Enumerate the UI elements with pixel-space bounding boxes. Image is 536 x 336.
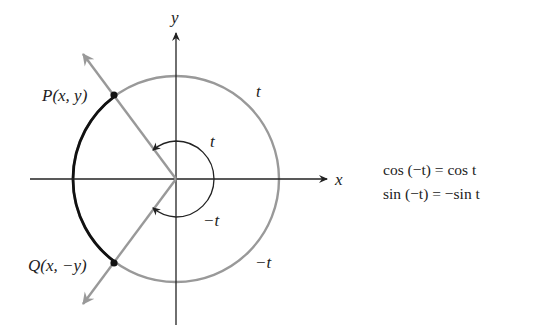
y-axis-label: y: [169, 8, 179, 27]
sin-identity: sin (−t) = −sin t: [383, 182, 480, 206]
lower-arc-label: −t: [255, 253, 272, 272]
point-p-label: P(x, y): [41, 86, 88, 105]
cos-identity: cos (−t) = cos t: [383, 158, 480, 182]
ray-to-p: [83, 54, 176, 179]
point-q: [110, 259, 117, 266]
x-axis-label: x: [334, 170, 343, 189]
identities: cos (−t) = cos t sin (−t) = −sin t: [383, 158, 480, 206]
angle-positive-label: t: [210, 132, 216, 151]
point-q-label: Q(x, −y): [28, 256, 87, 275]
point-p: [110, 91, 117, 98]
angle-negative-label: −t: [203, 211, 220, 230]
upper-arc-label: t: [256, 82, 262, 101]
ray-to-q: [83, 179, 176, 304]
